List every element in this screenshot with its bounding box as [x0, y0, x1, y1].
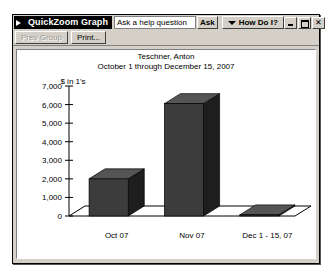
how-do-i-dropdown[interactable]: How Do I?: [222, 16, 284, 29]
bar-side: [204, 94, 220, 216]
y-tick-label: 5,000: [42, 119, 63, 128]
how-do-i-label: How Do I?: [239, 18, 278, 27]
close-button[interactable]: ✕: [312, 17, 325, 29]
print-button[interactable]: Print...: [71, 31, 106, 44]
window-title-block: QuickZoom Graph: [14, 16, 112, 29]
y-tick-label: 1,000: [42, 193, 63, 202]
help-question-input[interactable]: Ask a help question: [114, 16, 196, 29]
y-tick-label: 4,000: [42, 138, 63, 147]
plot-area: 01,0002,0003,0004,0005,0006,0007,000$ in…: [17, 76, 315, 258]
bar-front: [164, 104, 203, 216]
window-title: QuickZoom Graph: [28, 16, 108, 29]
bar-chart: 01,0002,0003,0004,0005,0006,0007,000$ in…: [17, 76, 316, 242]
chart-subtitle: October 1 through December 15, 2007: [17, 62, 315, 72]
y-tick-label: 6,000: [42, 101, 63, 110]
y-tick-label: 0: [58, 212, 63, 221]
title-bar: QuickZoom Graph Ask a help question Ask …: [13, 15, 319, 30]
y-axis-label: $ in 1's: [60, 77, 85, 86]
chevron-down-icon: [228, 21, 236, 25]
chart-client-area: Teschner, Anton October 1 through Decemb…: [16, 49, 316, 259]
maximize-button[interactable]: [298, 17, 311, 29]
x-tick-label: Nov 07: [179, 231, 205, 240]
y-tick-label: 2,000: [42, 175, 63, 184]
ask-button[interactable]: Ask: [197, 16, 218, 29]
bar-front: [89, 179, 128, 216]
x-tick-label: Oct 07: [105, 231, 129, 240]
y-tick-label: 3,000: [42, 156, 63, 165]
window-controls: ✕: [284, 16, 326, 30]
chart-title: Teschner, Anton: [17, 52, 315, 62]
close-icon: ✕: [313, 18, 324, 28]
quickzoom-graph-window: QuickZoom Graph Ask a help question Ask …: [12, 14, 320, 264]
minimize-button[interactable]: [284, 17, 297, 29]
bar-front: [240, 215, 279, 216]
app-arrow-icon: [16, 18, 25, 27]
x-tick-label: Dec 1 - 15, 07: [242, 231, 293, 240]
toolbar: Prev Group Print...: [13, 30, 319, 46]
chart-header: Teschner, Anton October 1 through Decemb…: [17, 50, 315, 72]
prev-group-button[interactable]: Prev Group: [15, 31, 68, 44]
